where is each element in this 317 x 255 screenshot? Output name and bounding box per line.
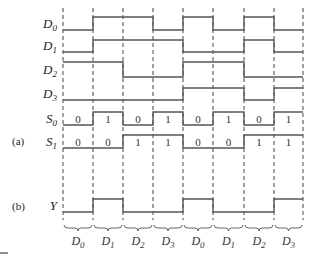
label-d1: D1 [42,38,57,55]
interval-brace [184,225,212,231]
select-bit-value: 1 [165,136,171,148]
label-s1: S1 [46,134,57,151]
label-s0: S0 [46,111,58,128]
label-d0: D0 [42,16,57,33]
select-bit-value: 0 [75,113,81,125]
select-bit-value: 0 [195,113,201,125]
interval-label: D2 [130,234,145,250]
interval-label: D1 [100,234,114,250]
signal-labels: D0D1D2D3S0S1Y [42,16,59,213]
interval-braces: D0D1D2D3D0D1D2D3 [64,225,302,250]
select-bit-value: 0 [105,136,111,148]
part-a-tag: (a) [12,135,25,148]
select-bit-value: 1 [105,113,111,125]
interval-brace [124,225,152,231]
signal-waveforms [63,17,303,212]
select-bit-value: 0 [75,136,81,148]
mux-timing-diagram: D0D1D2D3S0S1Y 0101010100110011 D0D1D2D3D… [0,0,317,255]
select-bit-value: 1 [286,136,292,148]
part-b-tag: (b) [12,200,25,213]
select-bit-value: 1 [226,113,232,125]
select-bit-value: 0 [256,113,262,125]
wave-s0 [63,112,303,125]
interval-brace [245,225,273,231]
select-bit-value: 1 [256,136,262,148]
interval-brace [94,225,122,231]
interval-brace [64,225,92,231]
select-bit-value: 0 [195,136,201,148]
interval-brace [214,225,243,231]
interval-label: D0 [70,234,85,250]
wave-d0 [63,17,303,30]
wave-d3 [63,88,303,100]
select-bit-value: 1 [135,136,141,148]
interval-label: D2 [251,234,266,250]
interval-label: D0 [190,234,205,250]
interval-brace [154,225,182,231]
select-bit-value: 1 [165,113,171,125]
label-d2: D2 [42,62,57,79]
wave-s1 [63,135,303,148]
interval-label: D3 [281,234,296,250]
select-bit-value: 0 [226,136,232,148]
wave-y [63,199,303,212]
wave-d1 [63,40,303,52]
wave-d2 [63,62,303,77]
interval-label: D1 [221,234,235,250]
label-d3: D3 [42,86,57,103]
interval-brace [275,225,302,231]
select-bit-value: 1 [286,113,292,125]
select-bit-value: 0 [135,113,141,125]
label-y: Y [50,198,59,213]
interval-label: D3 [160,234,175,250]
